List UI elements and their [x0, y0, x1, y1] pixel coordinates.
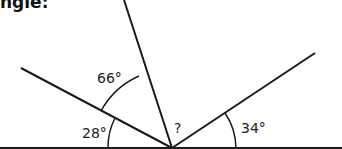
angle-diagram: 66° 28° ? 34°: [0, 0, 342, 149]
arc-34: [225, 113, 236, 148]
label-28: 28°: [82, 125, 107, 141]
label-unknown: ?: [174, 120, 181, 136]
label-34: 34°: [241, 120, 266, 136]
label-66: 66°: [97, 70, 122, 86]
arc-28: [108, 118, 115, 148]
